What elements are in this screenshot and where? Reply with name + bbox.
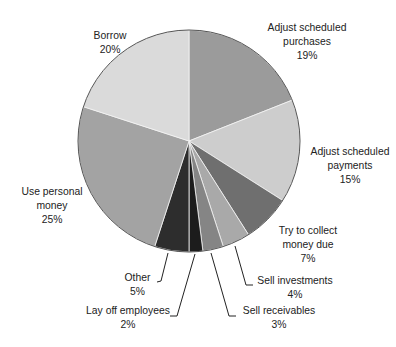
label-purchases-line2: purchases bbox=[240, 34, 375, 48]
label-borrow-pct: 20% bbox=[88, 42, 133, 56]
leader-line-layoff bbox=[170, 254, 195, 316]
label-investments-pct: 4% bbox=[255, 287, 336, 301]
label-personal-line1: Use personal bbox=[21, 184, 84, 198]
label-layoff: Lay off employees 2% bbox=[83, 303, 173, 331]
label-collect: Try to collect money due 7% bbox=[272, 223, 344, 265]
label-investments: Sell investments 4% bbox=[255, 273, 336, 301]
pie-slices bbox=[78, 30, 300, 252]
leader-line-receivables bbox=[211, 253, 236, 316]
label-borrow: Borrow 20% bbox=[88, 28, 133, 56]
label-purchases-pct: 19% bbox=[240, 48, 375, 62]
label-other: Other 5% bbox=[117, 270, 158, 298]
label-other-line1: Other bbox=[117, 270, 158, 284]
label-borrow-line1: Borrow bbox=[88, 28, 133, 42]
label-payments-pct: 15% bbox=[301, 172, 396, 186]
label-layoff-pct: 2% bbox=[83, 317, 173, 331]
leader-line-other bbox=[157, 253, 168, 282]
label-payments-line2: payments bbox=[301, 158, 396, 172]
label-collect-pct: 7% bbox=[272, 251, 344, 265]
label-layoff-line1: Lay off employees bbox=[83, 303, 173, 317]
leader-line-investments bbox=[235, 246, 253, 285]
label-payments-line1: Adjust scheduled bbox=[301, 144, 396, 158]
label-other-pct: 5% bbox=[117, 284, 158, 298]
label-collect-line2: money due bbox=[272, 237, 344, 251]
label-personal-pct: 25% bbox=[21, 212, 84, 226]
label-purchases-line1: Adjust scheduled bbox=[240, 20, 375, 34]
label-payments: Adjust scheduled payments 15% bbox=[301, 144, 396, 186]
label-purchases: Adjust scheduled purchases 19% bbox=[240, 20, 375, 62]
label-receivables: Sell receivables 3% bbox=[239, 303, 320, 331]
label-collect-line1: Try to collect bbox=[272, 223, 344, 237]
label-personal-line2: money bbox=[21, 198, 84, 212]
label-investments-line1: Sell investments bbox=[255, 273, 336, 287]
label-receivables-pct: 3% bbox=[239, 317, 320, 331]
label-personal: Use personal money 25% bbox=[21, 184, 84, 226]
label-receivables-line1: Sell receivables bbox=[239, 303, 320, 317]
